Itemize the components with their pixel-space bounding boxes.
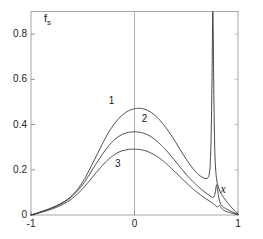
- x-tick-marks: [31, 211, 238, 215]
- curve-label-2: 2: [142, 113, 148, 124]
- y-tick-label: 0.6: [13, 73, 27, 84]
- y-axis-label: fs: [44, 12, 51, 27]
- y-axis-label-subscript: s: [47, 18, 51, 27]
- plot-frame: [31, 12, 238, 216]
- x-axis-label: x: [221, 182, 226, 197]
- y-tick-label: 0.4: [13, 119, 27, 130]
- curve-label-3: 3: [115, 158, 121, 169]
- chart-figure: 00.20.40.60.8 -101 fs 123x: [0, 0, 263, 239]
- x-tick-label: -1: [21, 218, 41, 229]
- x-tick-label: 0: [125, 218, 145, 229]
- y-tick-label: 0.8: [13, 28, 27, 39]
- plot-canvas: [0, 0, 263, 239]
- curve-label-1: 1: [109, 95, 115, 106]
- y-tick-label: 0.2: [13, 164, 27, 175]
- x-tick-label: 1: [228, 218, 248, 229]
